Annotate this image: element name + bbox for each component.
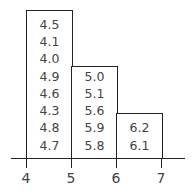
value: 4.7: [40, 137, 60, 154]
value: 5.8: [85, 137, 105, 154]
x-tick-label: 6: [106, 170, 126, 186]
x-tick-label: 4: [16, 170, 36, 186]
value: 4.6: [40, 85, 60, 102]
x-tick-label: 7: [151, 170, 171, 186]
value: 5.6: [85, 102, 105, 119]
bar-4-5-values: 4.5 4.1 4.0 4.9 4.6 4.3 4.8 4.7: [27, 16, 72, 154]
value: 5.0: [85, 68, 105, 85]
bar-5-6-values: 5.0 5.1 5.6 5.9 5.8: [72, 68, 117, 154]
value: 4.0: [40, 50, 60, 67]
value: 4.5: [40, 16, 60, 33]
value: 5.9: [85, 119, 105, 136]
x-tick: [26, 158, 27, 168]
x-axis: [11, 158, 185, 159]
value: 5.1: [85, 85, 105, 102]
value: 6.2: [130, 119, 150, 136]
bar-6-7: 6.2 6.1: [116, 113, 163, 159]
x-tick: [161, 158, 162, 168]
value: 4.9: [40, 68, 60, 85]
x-tick: [71, 158, 72, 168]
bar-4-5: 4.5 4.1 4.0 4.9 4.6 4.3 4.8 4.7: [26, 10, 73, 159]
x-tick: [116, 158, 117, 168]
x-tick-label: 5: [61, 170, 81, 186]
value: 4.8: [40, 119, 60, 136]
bar-6-7-values: 6.2 6.1: [117, 119, 162, 154]
bar-5-6: 5.0 5.1 5.6 5.9 5.8: [71, 66, 118, 159]
value: 4.3: [40, 102, 60, 119]
value: 4.1: [40, 33, 60, 50]
value: 6.1: [130, 137, 150, 154]
